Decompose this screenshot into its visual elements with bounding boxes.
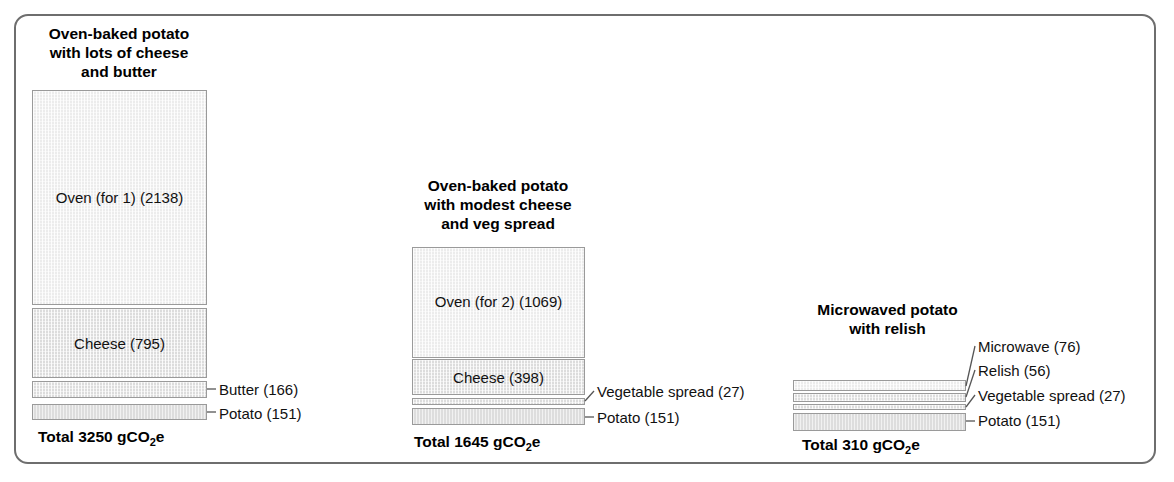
column-1-total-unit: gCO2e [117,428,164,445]
column-3-total: Total 310 gCO2e [802,436,920,454]
bar-segment-oven-for-2[interactable]: Oven (for 2) (1069) [412,247,585,358]
callout-potato-3: Potato (151) [978,412,1061,429]
column-1-total-value: 3250 [78,428,112,445]
column-1-total-prefix: Total [38,428,74,445]
column-2-total-value: 1645 [454,433,488,450]
bar-segment-relish[interactable] [793,393,966,402]
column-3-total-prefix: Total [802,436,838,453]
column-2-total: Total 1645 gCO2e [414,433,540,451]
callout-microwave: Microwave (76) [978,338,1081,355]
column-2-total-unit: gCO2e [493,433,540,450]
bar-segment-oven-for-1[interactable]: Oven (for 1) (2138) [32,90,207,305]
column-2-total-prefix: Total [414,433,450,450]
column-2-title: Oven-baked potato with modest cheese and… [409,176,587,233]
bar-segment-cheese-1[interactable]: Cheese (795) [32,308,207,378]
column-3-total-value: 310 [842,436,868,453]
bar-segment-potato-2[interactable] [412,408,585,425]
callout-potato-2: Potato (151) [597,409,680,426]
callout-vegetable-spread-3: Vegetable spread (27) [978,387,1126,404]
bar-segment-vegetable-spread-2[interactable] [412,398,585,405]
bar-segment-cheese-1-label: Cheese (795) [33,335,206,352]
column-1-total: Total 3250 gCO2e [38,428,164,446]
bar-segment-oven-for-1-label: Oven (for 1) (2138) [33,189,206,206]
bar-segment-vegetable-spread-3[interactable] [793,404,966,410]
callout-relish: Relish (56) [978,362,1051,379]
bar-segment-potato-3[interactable] [793,413,966,431]
bar-segment-potato-1[interactable] [32,404,207,420]
bar-segment-microwave[interactable] [793,380,966,391]
chart-canvas: Oven-baked potato with lots of cheese an… [0,0,1174,482]
bar-segment-butter[interactable] [32,381,207,398]
callout-butter: Butter (166) [219,381,298,398]
bar-segment-cheese-2[interactable]: Cheese (398) [412,359,585,395]
column-3-title: Microwaved potato with relish [795,300,980,338]
bar-segment-oven-for-2-label: Oven (for 2) (1069) [413,293,584,310]
callout-vegetable-spread-2: Vegetable spread (27) [597,383,745,400]
bar-segment-cheese-2-label: Cheese (398) [413,369,584,386]
column-1-title: Oven-baked potato with lots of cheese an… [30,24,208,81]
column-3-total-unit: gCO2e [872,436,919,453]
callout-potato-1: Potato (151) [219,405,302,422]
